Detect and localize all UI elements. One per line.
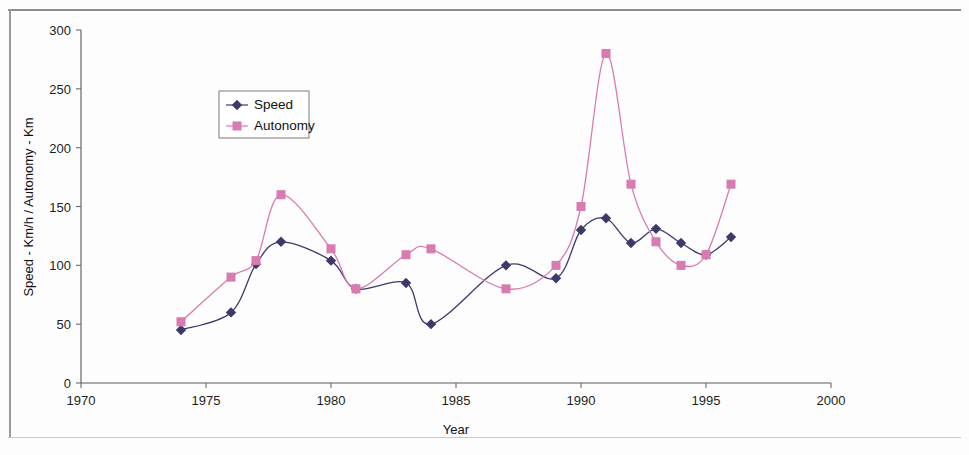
- data-point-speed: [652, 225, 660, 233]
- chart-legend[interactable]: SpeedAutonomy: [219, 91, 315, 138]
- y-tick-label: 300: [49, 23, 71, 38]
- data-point-autonomy: [502, 285, 510, 293]
- data-point-speed: [502, 261, 510, 269]
- data-point-speed: [277, 238, 285, 246]
- data-point-speed: [627, 239, 635, 247]
- data-point-autonomy: [677, 261, 685, 269]
- x-tick-label: 1970: [67, 393, 96, 408]
- data-point-speed: [427, 320, 435, 328]
- data-point-speed: [602, 214, 610, 222]
- line-chart: 050100150200250300 197019751980198519901…: [0, 0, 969, 455]
- x-axis-ticks: 1970197519801985199019952000: [67, 383, 846, 408]
- data-point-speed: [177, 326, 185, 334]
- data-point-autonomy: [702, 251, 710, 259]
- series-speed: [177, 214, 735, 334]
- data-point-autonomy: [277, 191, 285, 199]
- x-tick-label: 1985: [442, 393, 471, 408]
- chart-plot-svg: 050100150200250300 197019751980198519901…: [0, 0, 969, 455]
- data-point-autonomy: [427, 245, 435, 253]
- y-tick-label: 100: [49, 258, 71, 273]
- data-point-speed: [677, 239, 685, 247]
- data-point-autonomy: [252, 257, 260, 265]
- legend-label-speed: Speed: [254, 97, 293, 112]
- data-point-autonomy: [352, 285, 360, 293]
- x-tick-label: 1980: [317, 393, 346, 408]
- y-tick-label: 200: [49, 141, 71, 156]
- data-point-autonomy: [627, 180, 635, 188]
- data-point-autonomy: [652, 238, 660, 246]
- data-point-autonomy: [577, 203, 585, 211]
- legend-marker-autonomy: [233, 122, 241, 130]
- y-axis-title: Speed - Km/h / Autonomy - Km: [21, 117, 36, 296]
- data-point-autonomy: [602, 50, 610, 58]
- data-point-autonomy: [402, 251, 410, 259]
- series-line-speed: [181, 218, 731, 330]
- data-point-autonomy: [177, 318, 185, 326]
- x-tick-label: 1975: [192, 393, 221, 408]
- data-point-autonomy: [727, 180, 735, 188]
- data-point-speed: [552, 274, 560, 282]
- y-tick-label: 250: [49, 82, 71, 97]
- legend-label-autonomy: Autonomy: [254, 118, 315, 133]
- x-tick-label: 1990: [567, 393, 596, 408]
- y-axis-ticks: 050100150200250300: [49, 23, 81, 391]
- y-tick-label: 150: [49, 200, 71, 215]
- x-tick-label: 2000: [817, 393, 846, 408]
- y-tick-label: 0: [64, 376, 71, 391]
- data-point-autonomy: [327, 245, 335, 253]
- x-axis-title: Year: [443, 422, 470, 437]
- x-tick-label: 1995: [692, 393, 721, 408]
- data-point-autonomy: [552, 261, 560, 269]
- y-tick-label: 50: [57, 317, 71, 332]
- data-point-autonomy: [227, 273, 235, 281]
- page-canvas: 050100150200250300 197019751980198519901…: [0, 0, 969, 455]
